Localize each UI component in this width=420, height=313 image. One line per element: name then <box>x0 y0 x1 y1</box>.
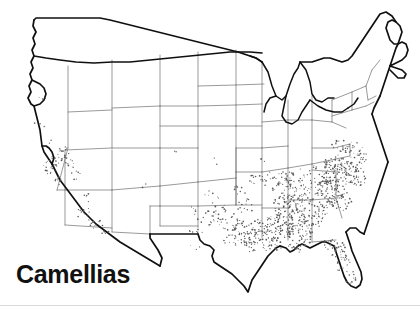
distribution-dot <box>265 231 266 232</box>
distribution-dot <box>338 140 339 141</box>
distribution-dot <box>231 234 232 235</box>
distribution-dot <box>292 231 293 232</box>
distribution-dot <box>238 202 239 203</box>
distribution-dot <box>297 211 298 212</box>
distribution-dot <box>346 281 348 283</box>
distribution-dot <box>322 213 323 214</box>
distribution-dot <box>299 240 301 242</box>
distribution-dot <box>289 207 291 209</box>
distribution-dot <box>271 216 272 217</box>
distribution-dot <box>290 204 291 205</box>
distribution-dot <box>272 240 274 242</box>
distribution-dot <box>279 216 280 217</box>
distribution-dot <box>235 243 236 244</box>
distribution-dot <box>335 175 336 176</box>
distribution-dot <box>287 230 288 231</box>
distribution-dot <box>346 181 347 182</box>
distribution-dot <box>278 208 280 210</box>
distribution-dot <box>313 165 314 166</box>
distribution-dot <box>301 215 303 217</box>
distribution-dot <box>262 179 263 180</box>
distribution-dot <box>318 195 319 196</box>
distribution-dot <box>305 230 306 231</box>
distribution-dot <box>336 247 338 249</box>
distribution-dot <box>327 243 328 244</box>
distribution-dot <box>278 181 279 182</box>
distribution-dot <box>340 267 342 269</box>
distribution-dot <box>347 264 348 265</box>
distribution-dot <box>344 251 345 252</box>
distribution-dot <box>221 221 222 222</box>
distribution-dot <box>348 282 349 283</box>
distribution-dot <box>333 169 334 170</box>
distribution-dot <box>311 187 312 188</box>
distribution-dot <box>326 177 327 178</box>
distribution-dot <box>335 198 336 199</box>
distribution-dot <box>267 231 268 232</box>
distribution-dot <box>341 162 342 163</box>
distribution-dot <box>309 238 311 240</box>
distribution-dot <box>268 246 269 247</box>
distribution-dot <box>341 195 343 197</box>
distribution-dot <box>291 172 293 174</box>
distribution-dot <box>275 237 276 238</box>
distribution-dot <box>265 250 266 251</box>
distribution-dot <box>335 194 336 195</box>
distribution-dot <box>309 203 311 205</box>
distribution-dot <box>345 257 346 258</box>
distribution-dot <box>324 173 325 174</box>
distribution-dot <box>339 160 341 162</box>
distribution-dot <box>283 220 284 221</box>
distribution-dot <box>243 221 245 223</box>
distribution-dot <box>349 169 350 170</box>
distribution-dot <box>234 228 235 229</box>
distribution-dot <box>271 232 272 233</box>
distribution-dot <box>319 208 320 209</box>
distribution-dot <box>282 229 283 230</box>
distribution-dot <box>350 150 352 152</box>
distribution-dot <box>356 164 358 166</box>
distribution-dot <box>277 229 278 230</box>
distribution-dot <box>253 227 254 228</box>
distribution-dot <box>312 215 313 216</box>
distribution-dot <box>292 219 294 221</box>
distribution-dot <box>329 203 330 204</box>
distribution-dot <box>264 161 265 162</box>
distribution-dot <box>302 235 303 236</box>
distribution-dot <box>347 164 348 165</box>
distribution-dot <box>45 166 46 167</box>
distribution-dot <box>307 239 308 240</box>
distribution-dot <box>249 251 250 252</box>
distribution-dot <box>358 170 360 172</box>
distribution-dot <box>251 181 252 182</box>
distribution-dot <box>241 233 242 234</box>
distribution-dot <box>296 203 297 204</box>
distribution-dot <box>360 168 361 169</box>
distribution-dot <box>197 218 199 220</box>
distribution-dot <box>334 202 335 203</box>
distribution-dot <box>330 169 331 170</box>
distribution-dot <box>293 174 295 176</box>
distribution-dot <box>175 151 176 152</box>
distribution-dot <box>299 210 301 212</box>
distribution-dot <box>311 217 312 218</box>
distribution-dot <box>292 232 293 233</box>
distribution-dot <box>214 206 216 208</box>
distribution-dot <box>322 180 324 182</box>
distribution-dot <box>249 180 251 182</box>
distribution-dot <box>348 146 349 147</box>
distribution-dot <box>61 150 63 152</box>
distribution-dot <box>246 198 248 200</box>
distribution-dot <box>353 176 355 178</box>
distribution-dot <box>360 181 361 182</box>
distribution-dot <box>304 208 305 209</box>
distribution-dot <box>288 203 289 204</box>
distribution-dot <box>251 247 252 248</box>
distribution-dot <box>257 222 258 223</box>
distribution-dot <box>345 184 346 185</box>
distribution-dot <box>332 168 334 170</box>
distribution-dot <box>295 187 296 188</box>
distribution-dot <box>325 179 326 180</box>
distribution-dot <box>254 220 256 222</box>
distribution-dot <box>351 142 352 143</box>
